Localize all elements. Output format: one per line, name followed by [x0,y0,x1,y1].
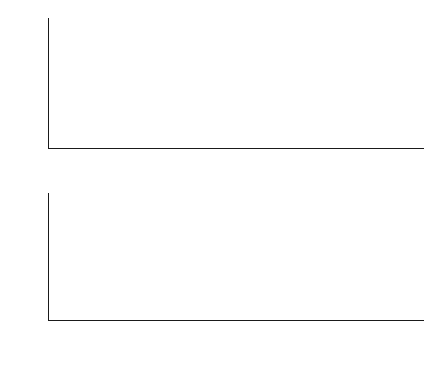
figure-container [0,0,442,367]
chart-process-output [0,185,442,350]
process-output-plot [0,185,442,350]
process-input-axes [49,18,425,149]
process-output-axes [49,193,425,321]
chart-process-input [0,0,442,185]
process-input-plot [0,0,442,185]
figure-caption [0,355,442,367]
